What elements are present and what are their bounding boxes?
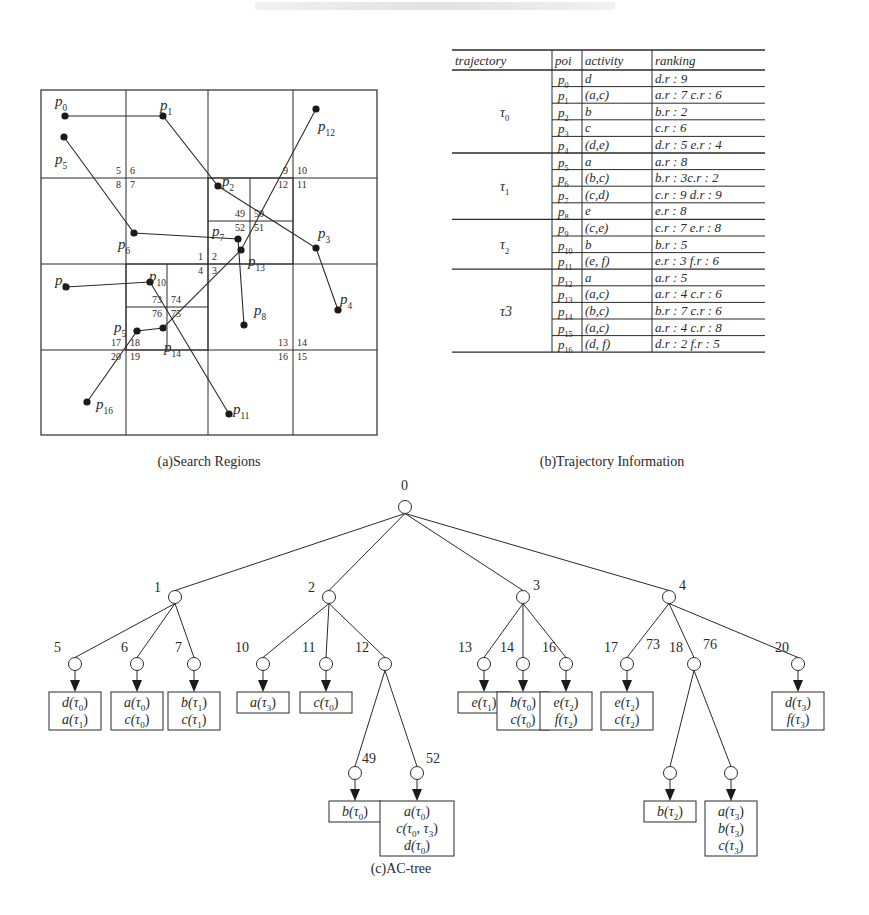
poi-label: p16: [95, 396, 113, 416]
arrow-down-icon: [70, 680, 80, 692]
cell-label: 13: [278, 337, 288, 348]
poi-dot: [312, 244, 319, 251]
arrow-down-icon: [561, 680, 571, 692]
tree-node-label: 11: [302, 640, 315, 655]
poi-dot: [60, 133, 67, 140]
activity-cell: (d,e): [585, 137, 609, 152]
cell-label: 52: [235, 222, 245, 233]
ranking-cell: a.r : 4 c.r : 8: [655, 320, 722, 335]
tree-node: [792, 658, 805, 671]
tree-node: [478, 658, 491, 671]
cell-label: 74: [171, 294, 181, 305]
arrow-down-icon: [321, 680, 331, 692]
cell-label: 8: [116, 179, 121, 190]
tree-node-label: 0: [401, 478, 408, 493]
activity-cell: (d, f): [585, 336, 610, 351]
tree-node: [688, 658, 701, 671]
tree-edge: [137, 604, 175, 658]
poi-label: p9: [54, 272, 68, 292]
tree-node-label: 52: [426, 751, 440, 766]
tree-node: [69, 658, 82, 671]
tree-node-label: 76: [703, 637, 717, 652]
tree-node-label: 1: [154, 580, 161, 595]
tree-edge: [175, 514, 405, 591]
activity-cell: d: [585, 71, 592, 86]
tree-node: [664, 767, 677, 780]
activity-cell: (a,c): [585, 320, 609, 335]
ac-tree-panel: 0123456710111213141617182049527376d(τ0)a…: [49, 478, 824, 856]
ranking-cell: d.r : 5 e.r : 4: [655, 137, 722, 152]
tree-node-label: 13: [458, 640, 472, 655]
trajectory-cell: τ1: [500, 179, 509, 197]
tree-node: [725, 767, 738, 780]
tree-node: [349, 767, 362, 780]
poi-label: p14: [163, 339, 181, 359]
tree-node-label: 16: [542, 640, 556, 655]
cell-label: 15: [297, 351, 307, 362]
tree-node: [517, 591, 530, 604]
poi-label: p5: [113, 319, 127, 339]
cell-label: 19: [130, 351, 140, 362]
activity-cell: (a,c): [585, 286, 609, 301]
tree-node-label: 7: [175, 640, 182, 655]
activity-cell: (b,c): [585, 303, 609, 318]
tree-node: [257, 658, 270, 671]
tree-node: [188, 658, 201, 671]
ranking-cell: b.r : 3c.r : 2: [655, 170, 719, 185]
tree-edge: [670, 671, 694, 767]
poi-label: p4: [339, 291, 353, 311]
poi-dot: [237, 246, 244, 253]
activity-cell: (c,d): [585, 187, 609, 202]
poi-label: p3: [317, 225, 331, 245]
poi-dot: [312, 105, 319, 112]
ranking-cell: a.r : 4 c.r : 6: [655, 286, 722, 301]
activity-cell: b: [585, 104, 592, 119]
cell-label: 76: [152, 308, 162, 319]
tree-node-label: 17: [604, 640, 618, 655]
tree-node: [320, 658, 333, 671]
activity-cell: (a,c): [585, 87, 609, 102]
cell-label: 7: [130, 179, 135, 190]
arrow-down-icon: [189, 680, 199, 692]
tree-node-label: 20: [775, 640, 789, 655]
arrow-down-icon: [258, 680, 268, 692]
search-regions-panel: 5687910121112431314161517182019495052517…: [41, 90, 377, 435]
ranking-cell: b.r : 5: [655, 237, 688, 252]
poi-dot: [159, 324, 166, 331]
arrow-down-icon: [793, 680, 803, 692]
arrow-down-icon: [479, 680, 489, 692]
poi-label: p8: [253, 302, 267, 322]
ranking-cell: e.r : 3 f.r : 6: [655, 253, 719, 268]
poi-label: p6: [117, 236, 131, 256]
cell-label: 10: [297, 165, 307, 176]
poi-dot: [240, 321, 247, 328]
trajectory-path: [66, 282, 229, 414]
ranking-cell: a.r : 8: [655, 154, 688, 169]
ranking-cell: e.r : 8: [655, 203, 687, 218]
cell-label: 1: [198, 251, 203, 262]
tree-node: [663, 591, 676, 604]
trajectory-information-table: trajectorypoiactivityrankingp0dd.r : 9p1…: [452, 50, 765, 355]
cell-label: 2: [212, 251, 217, 262]
arrow-down-icon: [132, 680, 142, 692]
cell-label: 75: [171, 308, 181, 319]
column-header-ranking: ranking: [655, 53, 696, 68]
tree-node-label: 6: [121, 640, 128, 655]
tree-node: [621, 658, 634, 671]
ranking-cell: a.r : 5: [655, 270, 688, 285]
ranking-cell: b.r : 7 c.r : 6: [655, 303, 722, 318]
ranking-cell: b.r : 2: [655, 104, 688, 119]
tree-node-label: 10: [235, 640, 249, 655]
arrow-down-icon: [622, 680, 632, 692]
tree-node-label: 73: [646, 637, 660, 652]
column-header-poi: poi: [554, 53, 572, 68]
cell-label: 49: [235, 208, 245, 219]
tree-node: [169, 591, 182, 604]
arrow-down-icon: [350, 789, 360, 801]
tree-node-label: 3: [533, 578, 540, 593]
poi-dot: [83, 398, 90, 405]
activity-cell: (b,c): [585, 170, 609, 185]
activity-cell: (c,e): [585, 220, 608, 235]
tree-node-label: 5: [54, 640, 61, 655]
cell-label: 6: [130, 165, 135, 176]
